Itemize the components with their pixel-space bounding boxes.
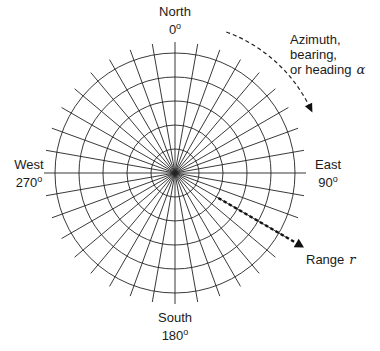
alpha-symbol: α [356, 62, 365, 77]
north-degrees: 0o [140, 19, 210, 37]
degree-symbol: o [176, 21, 181, 31]
west-label: West 270o [4, 157, 54, 190]
azimuth-arrowhead-icon [305, 103, 313, 113]
west-name: West [4, 157, 54, 172]
range-arrowhead-icon [294, 239, 304, 248]
east-label: East 90o [308, 157, 348, 190]
azimuth-label: Azimuth, bearing, or headingα [290, 32, 380, 77]
south-degrees: 180o [140, 325, 210, 343]
azimuth-line-3: or headingα [290, 62, 380, 77]
azimuth-line-1: Azimuth, [290, 32, 380, 47]
azimuth-line-2: bearing, [290, 47, 380, 62]
degree-symbol: o [37, 174, 42, 184]
range-text: Range [306, 252, 344, 267]
west-degrees: 270o [4, 172, 54, 190]
east-degrees: 90o [308, 172, 348, 190]
south-name: South [140, 310, 210, 325]
south-label: South 180o [140, 310, 210, 343]
north-name: North [140, 4, 210, 19]
range-label: Ranger [306, 252, 380, 267]
east-name: East [308, 157, 348, 172]
degree-symbol: o [333, 174, 338, 184]
r-symbol: r [349, 252, 355, 267]
radial-spokes [44, 42, 306, 304]
north-label: North 0o [140, 4, 210, 37]
degree-symbol: o [183, 327, 188, 337]
